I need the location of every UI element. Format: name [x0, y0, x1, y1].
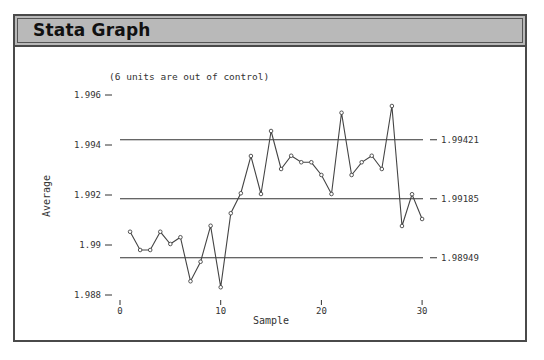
control-limit-lines: 1.994211.991851.98949 [120, 135, 479, 263]
data-point-marker [370, 154, 374, 158]
data-point-marker [138, 248, 142, 252]
data-point-marker [350, 173, 354, 177]
data-point-marker [269, 129, 273, 133]
series-line [130, 106, 422, 287]
data-point-marker [320, 173, 324, 177]
data-point-marker [299, 160, 303, 164]
data-point-marker [179, 235, 183, 239]
data-point-marker [259, 192, 263, 196]
data-point-marker [330, 192, 334, 196]
y-axis: 1.9961.9941.9921.991.988 [74, 90, 112, 300]
control-chart: (6 units are out of control) 1.9961.9941… [0, 0, 544, 360]
control-limit-label: 1.99185 [441, 194, 479, 204]
y-tick-label: 1.996 [74, 90, 101, 100]
y-axis-title: Average [41, 175, 52, 217]
control-limit-label: 1.98949 [441, 253, 479, 263]
data-point-marker [158, 230, 162, 234]
y-tick-label: 1.992 [74, 190, 101, 200]
data-point-marker [289, 154, 293, 158]
x-tick-label: 30 [417, 306, 428, 316]
x-tick-label: 20 [316, 306, 327, 316]
data-point-marker [199, 260, 203, 264]
x-tick-label: 10 [215, 306, 226, 316]
y-tick-label: 1.994 [74, 140, 101, 150]
y-tick-label: 1.988 [74, 290, 101, 300]
data-point-marker [219, 285, 223, 289]
x-axis-title: Sample [253, 315, 289, 326]
data-point-marker [400, 224, 404, 228]
chart-subtitle: (6 units are out of control) [109, 71, 269, 82]
data-point-marker [189, 279, 193, 283]
data-point-marker [239, 191, 243, 195]
data-point-marker [169, 242, 173, 246]
data-point-marker [209, 224, 213, 228]
x-tick-label: 0 [117, 306, 122, 316]
data-point-marker [128, 230, 132, 234]
data-point-marker [380, 167, 384, 171]
data-point-marker [420, 217, 424, 221]
control-limit-label: 1.99421 [441, 135, 479, 145]
data-point-marker [340, 111, 344, 115]
data-point-marker [279, 167, 283, 171]
data-point-marker [410, 192, 414, 196]
data-point-marker [229, 211, 233, 215]
data-point-marker [148, 248, 152, 252]
data-point-marker [360, 160, 364, 164]
y-tick-label: 1.99 [79, 240, 101, 250]
data-point-marker [249, 154, 253, 158]
data-series [128, 104, 424, 289]
data-point-marker [310, 160, 314, 164]
data-point-marker [390, 104, 394, 108]
x-axis: 0102030 [117, 300, 427, 316]
